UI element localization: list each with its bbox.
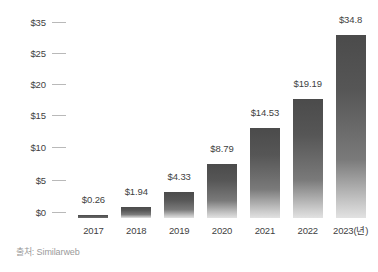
x-axis-tick-2018: 2018 (115, 220, 158, 238)
bar-group-2018[interactable]: $1.94 (115, 0, 158, 218)
bar-rect[interactable] (164, 192, 194, 218)
x-axis-tick-label: 2022 (298, 225, 318, 236)
x-axis-tick-2023: 2023(년) (329, 220, 372, 238)
bar-value-label: $19.19 (286, 78, 329, 89)
y-axis-tick: $25 (0, 48, 72, 59)
bar-rect[interactable] (78, 215, 108, 218)
x-axis-tick-label: 2017 (83, 225, 103, 236)
y-axis-tick-label: $0 (36, 207, 46, 218)
y-axis-tick: $5 (0, 175, 72, 186)
y-axis-tick-label: $10 (30, 142, 46, 153)
x-axis-tick-label: 2020 (212, 225, 232, 236)
y-axis: $35 $25 $20 $15 $10 $5 (0, 0, 72, 218)
y-axis-tick: $10 (0, 142, 72, 153)
bar-group-2017[interactable]: $0.26 (72, 0, 115, 218)
bar-rect[interactable] (250, 128, 280, 218)
bar-group-2022[interactable]: $19.19 (286, 0, 329, 218)
bar-rect[interactable] (336, 35, 366, 218)
x-axis: 2017 2018 2019 2020 2021 2022 2023(년) (72, 220, 372, 236)
bar-group-2020[interactable]: $8.79 (201, 0, 244, 218)
bar-value-label: $8.79 (201, 143, 244, 154)
bar-group-2019[interactable]: $4.33 (158, 0, 201, 218)
bar-rect[interactable] (207, 164, 237, 218)
bar-rect[interactable] (121, 207, 151, 218)
plot-area: $35 $25 $20 $15 $10 $5 (0, 0, 378, 218)
y-axis-tick-dash-icon (52, 115, 66, 116)
y-axis-tick-label: $25 (30, 48, 46, 59)
bar-value-label: $14.53 (243, 107, 286, 118)
y-axis-tick-label: $35 (30, 17, 46, 28)
y-axis-tick-dash-icon (52, 212, 66, 213)
y-axis-tick: $20 (0, 79, 72, 90)
source-caption: 출처: Similarweb (16, 246, 80, 258)
y-axis-tick-dash-icon (52, 147, 66, 148)
bars-layer: $0.26 $1.94 $4.33 $8.79 $14.53 $19.19 (72, 0, 372, 218)
bar-value-label: $0.26 (72, 194, 115, 205)
x-axis-tick-2020: 2020 (201, 220, 244, 238)
bar-value-label: $1.94 (115, 186, 158, 197)
x-axis-tick-label: 2019 (169, 225, 189, 236)
y-axis-tick-dash-icon (52, 22, 66, 23)
y-axis-tick-label: $15 (30, 110, 46, 121)
y-axis-tick-label: $5 (36, 175, 46, 186)
y-axis-tick-dash-icon (52, 53, 66, 54)
bar-chart-figure: $35 $25 $20 $15 $10 $5 (0, 0, 378, 272)
y-axis-tick: $35 (0, 17, 72, 28)
x-axis-tick-2022: 2022 (286, 220, 329, 238)
x-axis-tick-2017: 2017 (72, 220, 115, 238)
x-axis-tick-label: 2023(년) (333, 225, 368, 236)
y-axis-tick: $0 (0, 207, 72, 218)
bar-group-2023[interactable]: $34.8 (329, 0, 372, 218)
x-axis-tick-label: 2021 (255, 225, 275, 236)
y-axis-tick: $15 (0, 110, 72, 121)
bar-value-label: $34.8 (329, 14, 372, 25)
x-axis-tick-label: 2018 (126, 225, 146, 236)
y-axis-tick-dash-icon (52, 84, 66, 85)
x-axis-tick-2019: 2019 (158, 220, 201, 238)
x-axis-tick-2021: 2021 (243, 220, 286, 238)
bar-rect[interactable] (293, 99, 323, 218)
bar-value-label: $4.33 (158, 171, 201, 182)
y-axis-tick-label: $20 (30, 79, 46, 90)
y-axis-tick-dash-icon (52, 180, 66, 181)
bar-group-2021[interactable]: $14.53 (243, 0, 286, 218)
